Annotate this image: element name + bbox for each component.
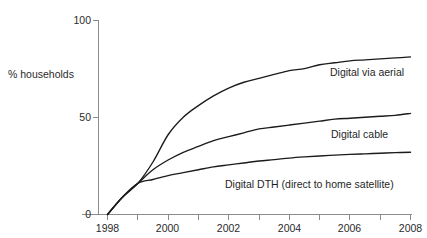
- y-axis-ticks: [93, 21, 99, 215]
- y-tick-label-0: 0: [55, 208, 91, 220]
- y-tick-label-50: 50: [55, 111, 91, 123]
- x-tick-label-2002: 2002: [208, 222, 249, 234]
- series-label-digital-dth: Digital DTH (direct to home satellite): [225, 178, 394, 190]
- series-label-digital-cable: Digital cable: [331, 128, 388, 140]
- x-tick-label-2000: 2000: [147, 222, 188, 234]
- x-tick-label-2006: 2006: [329, 222, 370, 234]
- x-tick-label-1998: 1998: [87, 222, 128, 234]
- x-axis-ticks: [108, 215, 411, 221]
- x-tick-label-2004: 2004: [269, 222, 310, 234]
- y-axis-title: % households: [8, 68, 74, 80]
- series-label-digital-via-aerial: Digital via aerial: [330, 66, 404, 78]
- y-tick-label-100: 100: [55, 14, 91, 26]
- x-tick-label-2008: 2008: [390, 222, 427, 234]
